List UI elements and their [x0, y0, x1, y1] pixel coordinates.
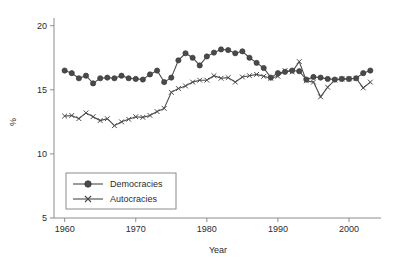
data-point [254, 60, 259, 65]
data-point [297, 69, 302, 74]
data-point [318, 75, 323, 80]
data-point [311, 74, 316, 79]
data-point [361, 71, 366, 76]
data-point [105, 75, 110, 80]
data-point [204, 54, 209, 59]
data-point [233, 51, 238, 56]
data-point [169, 75, 174, 80]
data-point [76, 76, 81, 81]
data-point [240, 49, 245, 54]
data-point [112, 76, 117, 81]
data-point [325, 85, 330, 90]
data-point [162, 106, 167, 111]
series-path [65, 49, 371, 83]
data-point [119, 119, 124, 124]
data-point [162, 80, 167, 85]
data-point [112, 123, 117, 128]
data-point [98, 76, 103, 81]
y-axis-title: % [8, 118, 18, 126]
data-point [69, 71, 74, 76]
data-point [140, 77, 145, 82]
line-chart: 5101520 19601970198019902000 % Year Demo… [0, 0, 393, 268]
data-point [91, 114, 96, 119]
data-point [368, 68, 373, 73]
data-point [211, 50, 216, 55]
data-point [247, 55, 252, 60]
x-tick-label: 1980 [197, 224, 217, 234]
x-tick-label: 1960 [55, 224, 75, 234]
data-point [297, 59, 302, 64]
x-tick-label: 1990 [268, 224, 288, 234]
x-tick-label: 1970 [126, 224, 146, 234]
data-point [325, 76, 330, 81]
data-point [154, 68, 159, 73]
data-point [318, 94, 323, 99]
legend-label-autocracies: Autocracies [110, 194, 158, 204]
data-point [126, 76, 131, 81]
data-point [183, 84, 188, 89]
data-point [176, 58, 181, 63]
data-point [190, 55, 195, 60]
data-point [261, 65, 266, 70]
legend-label-democracies: Democracies [110, 179, 163, 189]
data-point [176, 86, 181, 91]
series-path [65, 62, 371, 126]
data-point [133, 76, 138, 81]
data-point [76, 116, 81, 121]
y-axis-ticks: 5101520 [37, 21, 54, 223]
series-democracies [62, 47, 373, 86]
y-tick-label: 5 [42, 213, 47, 223]
y-tick-label: 20 [37, 21, 47, 31]
data-point [155, 109, 160, 114]
x-axis-title: Year [209, 245, 227, 255]
data-point [218, 47, 223, 52]
data-point [91, 81, 96, 86]
data-point [233, 80, 238, 85]
x-axis-ticks: 19601970198019902000 [55, 218, 359, 234]
x-tick-label: 2000 [339, 224, 359, 234]
data-point [183, 51, 188, 56]
y-tick-label: 10 [37, 149, 47, 159]
data-point [147, 72, 152, 77]
data-point [212, 73, 217, 78]
chart-root: 5101520 19601970198019902000 % Year Demo… [0, 0, 393, 268]
series-layer [62, 47, 373, 128]
data-point [126, 117, 131, 122]
data-point [368, 80, 373, 85]
data-point [361, 85, 366, 90]
chart-legend: Democracies Autocracies [66, 173, 176, 209]
series-autocracies [62, 59, 372, 128]
data-point [169, 90, 174, 95]
y-tick-label: 15 [37, 85, 47, 95]
data-point [119, 73, 124, 78]
data-point [83, 73, 88, 78]
data-point [226, 47, 231, 52]
data-point [84, 110, 89, 115]
data-point [62, 68, 67, 73]
data-point [197, 63, 202, 68]
legend-marker-democracies [85, 181, 91, 187]
